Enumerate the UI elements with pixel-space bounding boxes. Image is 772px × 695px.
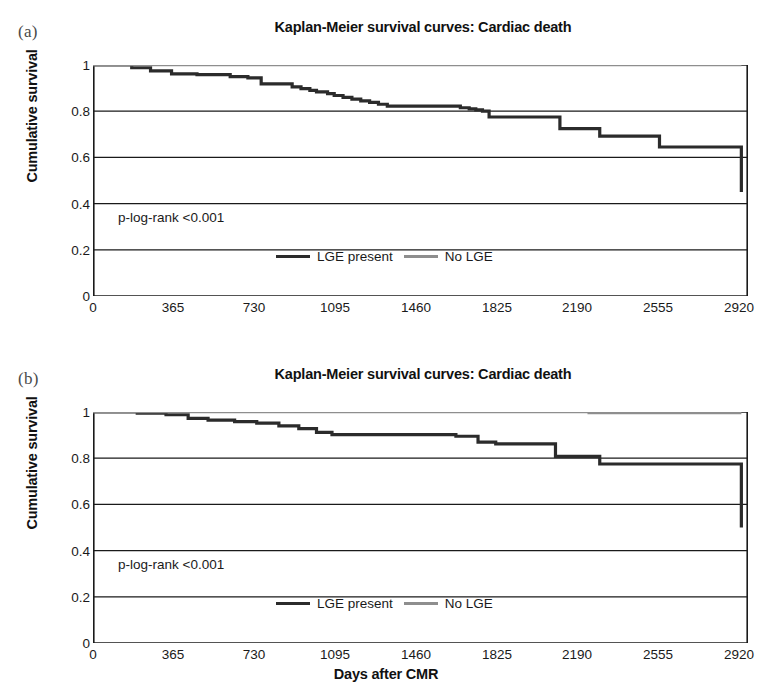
x-tick-label: 2555 bbox=[643, 300, 673, 315]
y-tick-label: 0.8 bbox=[71, 104, 90, 119]
legend-item-no-lge: No LGE bbox=[404, 596, 493, 611]
x-tick-label: 1825 bbox=[482, 647, 512, 662]
x-tick-label: 0 bbox=[89, 300, 97, 315]
panel-b-title: Kaplan-Meier survival curves: Cardiac de… bbox=[93, 366, 753, 382]
x-tick-label: 730 bbox=[243, 300, 266, 315]
y-tick-label: 1 bbox=[82, 58, 90, 73]
x-tick-label: 2920 bbox=[724, 647, 754, 662]
y-tick-label: 1 bbox=[82, 405, 90, 420]
kaplan-meier-figure: (a) Kaplan-Meier survival curves: Cardia… bbox=[0, 0, 772, 695]
legend-label: LGE present bbox=[317, 249, 393, 264]
x-tick-label: 1460 bbox=[401, 300, 431, 315]
y-tick-label: 0.8 bbox=[71, 451, 90, 466]
panel-a: (a) Kaplan-Meier survival curves: Cardia… bbox=[0, 0, 772, 348]
legend-item-lge-present: LGE present bbox=[276, 249, 393, 264]
y-tick-label: 0.4 bbox=[71, 197, 90, 212]
legend-line-icon-lge-present bbox=[276, 602, 310, 605]
panel-a-y-tick-labels: 1 0.8 0.6 0.4 0.2 0 bbox=[28, 55, 90, 307]
y-tick-label: 0.2 bbox=[71, 243, 90, 258]
series-line-no-lge bbox=[93, 412, 741, 413]
series-line-lge-present bbox=[93, 65, 741, 192]
panel-a-title: Kaplan-Meier survival curves: Cardiac de… bbox=[93, 19, 753, 35]
legend-label: No LGE bbox=[445, 249, 493, 264]
panel-b-legend: LGE present No LGE bbox=[276, 596, 493, 611]
legend-line-icon-no-lge bbox=[404, 255, 438, 258]
x-tick-label: 2190 bbox=[562, 300, 592, 315]
x-tick-label: 1095 bbox=[320, 647, 350, 662]
legend-item-lge-present: LGE present bbox=[276, 596, 393, 611]
y-tick-label: 0.6 bbox=[71, 150, 90, 165]
legend-item-no-lge: No LGE bbox=[404, 249, 493, 264]
x-tick-label: 2920 bbox=[724, 300, 754, 315]
y-tick-label: 0.4 bbox=[71, 544, 90, 559]
x-tick-label: 365 bbox=[162, 647, 185, 662]
x-tick-label: 0 bbox=[89, 647, 97, 662]
panel-a-legend: LGE present No LGE bbox=[276, 249, 493, 264]
panel-b-y-tick-labels: 1 0.8 0.6 0.4 0.2 0 bbox=[28, 402, 90, 654]
legend-label: LGE present bbox=[317, 596, 393, 611]
legend-line-icon-no-lge bbox=[404, 602, 438, 605]
y-tick-label: 0.2 bbox=[71, 590, 90, 605]
panel-a-x-tick-labels: 0 365 730 1095 1460 1825 2190 2555 2920 bbox=[93, 300, 748, 322]
x-tick-label: 730 bbox=[243, 647, 266, 662]
figure-x-axis-title: Days after CMR bbox=[0, 666, 772, 682]
legend-line-icon-lge-present bbox=[276, 255, 310, 258]
x-tick-label: 1825 bbox=[482, 300, 512, 315]
panel-b: (b) Kaplan-Meier survival curves: Cardia… bbox=[0, 347, 772, 695]
legend-label: No LGE bbox=[445, 596, 493, 611]
panel-b-pvalue-annotation: p-log-rank <0.001 bbox=[118, 557, 224, 572]
x-tick-label: 2555 bbox=[643, 647, 673, 662]
x-tick-label: 2190 bbox=[562, 647, 592, 662]
y-tick-label: 0.6 bbox=[71, 497, 90, 512]
x-tick-label: 365 bbox=[162, 300, 185, 315]
series-line-lge-present bbox=[93, 412, 741, 528]
x-tick-label: 1095 bbox=[320, 300, 350, 315]
panel-a-pvalue-annotation: p-log-rank <0.001 bbox=[118, 210, 224, 225]
x-tick-label: 1460 bbox=[401, 647, 431, 662]
